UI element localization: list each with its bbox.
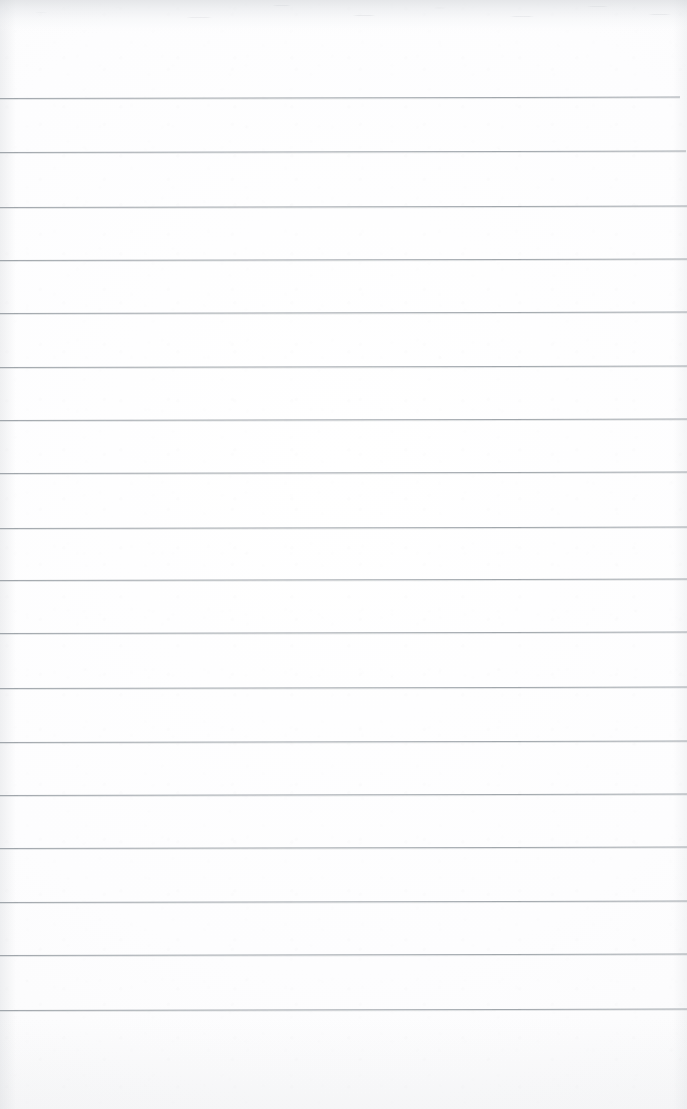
scanned-page (0, 0, 687, 1109)
rule-line (0, 472, 687, 474)
rule-line (0, 687, 687, 689)
rule-line (0, 151, 686, 153)
rule-line (0, 1009, 687, 1011)
rule-line (0, 954, 687, 956)
rule-line (0, 794, 687, 796)
rule-line (0, 632, 687, 634)
rule-line (0, 901, 687, 903)
rule-line (0, 366, 687, 368)
rule-line (0, 847, 687, 849)
rule-line (0, 741, 687, 743)
rule-line (0, 419, 687, 421)
ruled-line-group (0, 0, 687, 1109)
rule-line (0, 259, 687, 261)
rule-line (0, 97, 680, 99)
rule-line (0, 579, 687, 581)
rule-line (0, 206, 687, 208)
rule-line (0, 527, 687, 529)
rule-line (0, 312, 687, 314)
